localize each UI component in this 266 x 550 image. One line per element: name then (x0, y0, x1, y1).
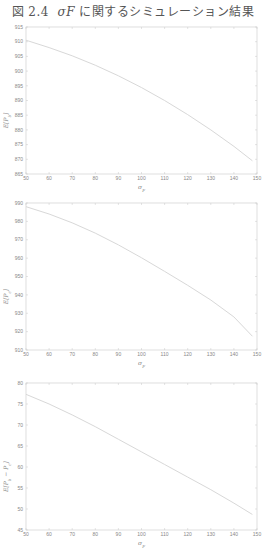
line-chart-e-pc: 5060708090100110120130140150910920930940… (0, 196, 266, 371)
x-tick-label: 90 (116, 351, 122, 357)
y-tick-label: 915 (15, 24, 24, 30)
x-tick-label: 50 (23, 175, 29, 181)
plot-frame (26, 383, 257, 530)
x-tick-label: 100 (137, 531, 146, 537)
y-tick-label: 960 (15, 255, 24, 261)
x-tick-label: 60 (46, 175, 52, 181)
y-tick-label: 920 (15, 328, 24, 334)
y-tick-label: 880 (15, 127, 24, 133)
y-tick-label: 940 (15, 292, 24, 298)
x-axis-label: σF (138, 359, 145, 369)
y-tick-label: 65 (17, 443, 23, 449)
data-line (26, 207, 252, 337)
plot-frame (26, 203, 257, 350)
data-line (26, 394, 252, 514)
x-tick-label: 140 (230, 531, 239, 537)
chart-panel-2: 5060708090100110120130140150910920930940… (0, 196, 266, 371)
y-tick-label: 870 (15, 156, 24, 162)
y-axis-label: E[Pb − Pc] (2, 460, 12, 492)
x-tick-label: 60 (46, 351, 52, 357)
x-tick-label: 150 (253, 175, 262, 181)
chart-panel-1: 5060708090100110120130140150865870875880… (0, 20, 266, 195)
caption-suffix: に関するシミュレーション結果 (79, 5, 254, 19)
x-tick-label: 100 (137, 351, 146, 357)
x-tick-label: 80 (93, 351, 99, 357)
x-tick-label: 80 (93, 531, 99, 537)
x-tick-label: 100 (137, 175, 146, 181)
x-axis-label: σF (138, 183, 145, 193)
y-axis-label: E[Pc] (2, 288, 12, 305)
x-tick-label: 110 (161, 175, 169, 181)
y-tick-label: 905 (15, 53, 24, 59)
x-tick-label: 120 (184, 531, 193, 537)
y-tick-label: 60 (17, 464, 23, 470)
y-tick-label: 895 (15, 83, 24, 89)
x-axis-label: σF (138, 539, 145, 549)
x-tick-label: 80 (93, 175, 99, 181)
y-tick-label: 865 (15, 171, 24, 177)
x-tick-label: 70 (69, 531, 75, 537)
y-tick-label: 910 (15, 347, 24, 353)
x-tick-label: 150 (253, 531, 262, 537)
x-tick-label: 140 (230, 351, 239, 357)
y-tick-label: 900 (15, 68, 24, 74)
x-tick-label: 70 (69, 175, 75, 181)
x-tick-label: 70 (69, 351, 75, 357)
y-tick-label: 950 (15, 273, 24, 279)
y-tick-label: 910 (15, 38, 24, 44)
x-tick-label: 140 (230, 175, 239, 181)
x-tick-label: 130 (207, 531, 216, 537)
data-line (26, 40, 252, 161)
y-tick-label: 875 (15, 141, 24, 147)
x-tick-label: 120 (184, 175, 193, 181)
y-tick-label: 890 (15, 97, 24, 103)
y-tick-label: 970 (15, 236, 24, 242)
y-tick-label: 990 (15, 200, 24, 206)
caption-symbol: σF (58, 5, 76, 19)
line-chart-e-pb-minus-pc: 5060708090100110120130140150455055606570… (0, 376, 266, 550)
y-tick-label: 75 (17, 401, 23, 407)
y-tick-label: 930 (15, 310, 24, 316)
y-tick-label: 50 (17, 506, 23, 512)
y-tick-label: 45 (17, 527, 23, 533)
x-tick-label: 90 (116, 175, 122, 181)
line-chart-e-pb: 5060708090100110120130140150865870875880… (0, 20, 266, 195)
x-tick-label: 130 (207, 351, 216, 357)
x-tick-label: 50 (23, 531, 29, 537)
x-tick-label: 150 (253, 351, 262, 357)
y-tick-label: 80 (17, 380, 23, 386)
x-tick-label: 110 (161, 351, 169, 357)
y-tick-label: 70 (17, 422, 23, 428)
x-tick-label: 60 (46, 531, 52, 537)
y-tick-label: 885 (15, 112, 24, 118)
x-tick-label: 50 (23, 351, 29, 357)
figure-caption: 図 2.4 σF に関するシミュレーション結果 (0, 2, 266, 19)
y-axis-label: E[Pb] (2, 112, 12, 129)
chart-panel-3: 5060708090100110120130140150455055606570… (0, 376, 266, 550)
x-tick-label: 90 (116, 531, 122, 537)
x-tick-label: 120 (184, 351, 193, 357)
x-tick-label: 130 (207, 175, 216, 181)
caption-prefix: 図 2.4 (12, 5, 49, 19)
x-tick-label: 110 (161, 531, 169, 537)
plot-frame (26, 27, 257, 174)
y-tick-label: 980 (15, 218, 24, 224)
y-tick-label: 55 (17, 485, 23, 491)
